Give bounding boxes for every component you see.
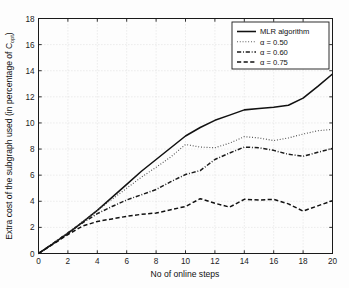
- x-tick-label: 10: [181, 257, 191, 266]
- legend-label-0: MLR algorithm: [260, 27, 309, 36]
- y-tick-label: 12: [25, 93, 35, 102]
- y-tick-label: 10: [25, 119, 35, 128]
- y-tick-label: 2: [30, 223, 35, 232]
- y-tick-label: 18: [25, 15, 35, 24]
- y-axis-title-main: Extra cost of the subgraph used (in perc…: [4, 43, 14, 240]
- x-tick-label: 8: [154, 257, 159, 266]
- x-tick-label: 0: [36, 257, 41, 266]
- legend-label-3: α = 0.75: [260, 58, 288, 67]
- x-tick-label: 4: [95, 257, 100, 266]
- x-tick-label: 14: [240, 257, 250, 266]
- y-tick-label: 16: [25, 41, 35, 50]
- x-tick-label: 16: [269, 257, 279, 266]
- x-tick-label: 2: [66, 257, 71, 266]
- x-axis-title: No of online steps: [151, 269, 220, 279]
- chart-legend: MLR algorithmα = 0.50α = 0.60α = 0.75: [232, 22, 329, 69]
- legend-label-1: α = 0.50: [260, 38, 288, 47]
- y-tick-label: 6: [30, 171, 35, 180]
- y-axis-title: Extra cost of the subgraph used (in perc…: [4, 32, 15, 240]
- y-tick-label: 14: [25, 67, 35, 76]
- legend-label-2: α = 0.60: [260, 48, 288, 57]
- y-tick-label: 8: [30, 145, 35, 154]
- x-tick-label: 18: [299, 257, 309, 266]
- y-tick-label: 0: [30, 250, 35, 259]
- x-tick-label: 12: [210, 257, 220, 266]
- line-chart: 02468101214161820024681012141618 No of o…: [0, 0, 349, 288]
- y-tick-label: 4: [30, 197, 35, 206]
- x-tick-label: 20: [328, 257, 338, 266]
- chart-figure: 02468101214161820024681012141618 No of o…: [0, 0, 349, 288]
- x-tick-label: 6: [124, 257, 129, 266]
- y-axis-title-suffix: ): [4, 32, 14, 35]
